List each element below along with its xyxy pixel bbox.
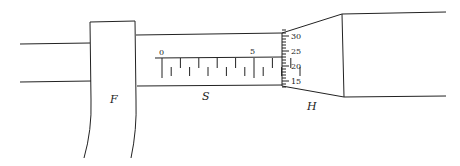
thimble-bevel-bottom	[282, 86, 344, 97]
thimble-bevel-top	[282, 14, 342, 33]
sleeve: 0 5 S	[136, 33, 300, 103]
anvil-upper-edge	[20, 43, 90, 44]
main-scale-ticks	[162, 58, 300, 78]
thimble-label-25: 25	[291, 47, 301, 56]
frame-label: F	[109, 93, 118, 106]
frame-top-edge	[90, 21, 135, 22]
frame-right-edge	[131, 21, 136, 158]
thimble-scale-ticks	[282, 30, 289, 87]
thimble-label-20: 20	[291, 62, 301, 71]
main-scale-label-5: 5	[250, 47, 255, 56]
thimble-body-bottom	[344, 96, 446, 97]
sleeve-label: S	[202, 90, 210, 103]
frame: F	[84, 21, 136, 158]
anvil-lower-edge	[20, 81, 91, 82]
main-scale-label-0: 0	[159, 48, 164, 57]
sleeve-top-edge	[136, 33, 282, 35]
thimble-label-30: 30	[291, 32, 301, 41]
thimble-label-15: 15	[291, 77, 301, 86]
thimble-label: H	[306, 100, 317, 113]
thimble-body-left	[342, 14, 344, 97]
thimble: 30 25 20 15 H	[282, 12, 446, 113]
sleeve-index-line	[155, 57, 282, 58]
frame-left-edge	[84, 22, 91, 158]
thimble-body-top	[342, 12, 446, 14]
thimble-scale-labels: 30 25 20 15	[291, 32, 301, 86]
micrometer-diagram: F 0 5 S 30 25 20 15 H	[0, 0, 460, 166]
sleeve-bottom-edge	[137, 85, 282, 86]
